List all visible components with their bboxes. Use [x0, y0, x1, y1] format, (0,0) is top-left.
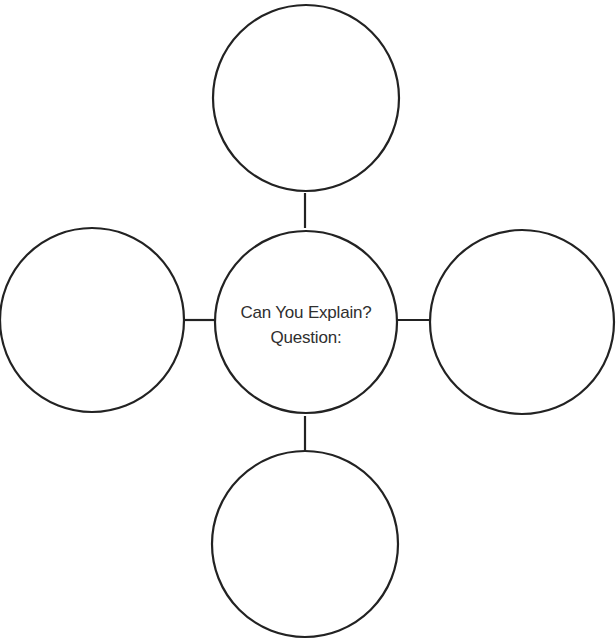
branch-circle-left[interactable]	[0, 228, 184, 412]
center-label: Can You Explain? Question:	[215, 300, 397, 350]
branch-circle-right[interactable]	[430, 230, 614, 414]
branch-circle-top[interactable]	[213, 5, 399, 191]
center-subtitle: Question:	[215, 325, 397, 350]
center-title: Can You Explain?	[215, 300, 397, 325]
branch-circle-bottom[interactable]	[212, 451, 398, 637]
